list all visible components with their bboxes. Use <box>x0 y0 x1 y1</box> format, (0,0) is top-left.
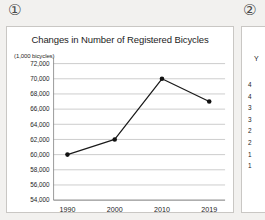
secondary-panel-row: 2 <box>248 137 252 149</box>
secondary-panel-row: 4 <box>248 79 252 91</box>
svg-text:2000: 2000 <box>107 206 123 212</box>
svg-text:58,000: 58,000 <box>30 166 50 173</box>
secondary-panel-row: 1 <box>248 149 252 161</box>
line-chart-svg: 72,00070,00068,00066,00064,00062,00060,0… <box>7 27 233 212</box>
figure-marker-2: ② <box>243 3 256 18</box>
svg-text:70,000: 70,000 <box>30 75 50 82</box>
svg-text:64,000: 64,000 <box>30 121 50 128</box>
svg-text:1990: 1990 <box>60 206 76 212</box>
secondary-panel-row: 4 <box>248 91 252 103</box>
chart-panel: Changes in Number of Registered Bicycles… <box>6 26 234 213</box>
secondary-panel-row: 2 <box>248 125 252 137</box>
secondary-panel-row: 3 <box>248 114 252 126</box>
svg-text:60,000: 60,000 <box>30 151 50 158</box>
svg-text:72,000: 72,000 <box>30 60 50 67</box>
svg-text:62,000: 62,000 <box>30 136 50 143</box>
secondary-panel-row-fragments: 44332211 <box>248 79 252 172</box>
svg-text:66,000: 66,000 <box>30 105 50 112</box>
secondary-panel-row: 1 <box>248 160 252 172</box>
chart-plot-area: 72,00070,00068,00066,00064,00062,00060,0… <box>7 27 233 212</box>
secondary-panel-clipped: Y 44332211 <box>241 26 265 213</box>
svg-text:2019: 2019 <box>201 206 217 212</box>
svg-text:56,000: 56,000 <box>30 181 50 188</box>
svg-text:68,000: 68,000 <box>30 90 50 97</box>
secondary-panel-header-fragment: Y <box>254 55 259 62</box>
svg-text:54,000: 54,000 <box>30 196 50 203</box>
figure-marker-1: ① <box>8 3 21 18</box>
secondary-panel-row: 3 <box>248 102 252 114</box>
svg-text:2010: 2010 <box>154 206 170 212</box>
